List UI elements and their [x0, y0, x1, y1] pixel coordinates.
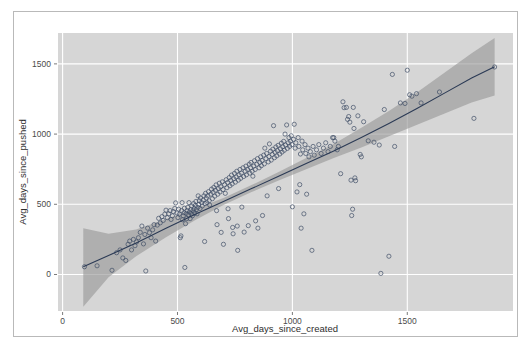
x-tick-label: 1500: [398, 316, 417, 326]
y-tick-label: 500: [37, 199, 51, 209]
figure-frame: 050010001500 050010001500 Avg_days_since…: [13, 11, 518, 337]
chart-canvas: 050010001500 050010001500 Avg_days_since…: [14, 12, 517, 336]
x-tick-label: 0: [60, 316, 65, 326]
y-axis: 050010001500: [32, 59, 57, 280]
y-tick-label: 1500: [32, 59, 51, 69]
scatter-plot-chart: 050010001500 050010001500 Avg_days_since…: [14, 12, 517, 336]
y-tick-label: 1000: [32, 129, 51, 139]
plot-panel: [58, 33, 513, 311]
y-tick-label: 0: [46, 269, 51, 279]
y-axis-title: Avg_days_since_pushed: [17, 119, 28, 224]
x-tick-label: 500: [170, 316, 184, 326]
x-axis-title: Avg_days_since_created: [232, 323, 338, 334]
